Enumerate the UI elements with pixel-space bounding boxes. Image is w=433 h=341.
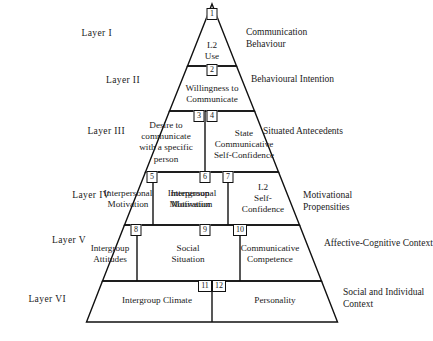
number-box-3[interactable]: 3: [194, 110, 205, 122]
layer-label-3: Layer III: [87, 126, 125, 137]
cell-text-5-left: Interpersonal Motivation: [104, 188, 152, 210]
side-label-4: Motivational Propensities: [303, 190, 352, 214]
cell-text-10: Communicative Competence: [241, 243, 300, 265]
layer-label-5: Layer V: [52, 235, 86, 246]
number-box-9[interactable]: 9: [200, 224, 211, 236]
layer-label-6: Layer VI: [28, 294, 66, 305]
number-box-1[interactable]: 1: [207, 8, 218, 20]
cell-text-2: Willingness to Communicate: [186, 83, 239, 105]
wtc-pyramid-diagram: Layer I Layer II Layer III Layer IV Laye…: [0, 0, 433, 341]
side-label-3: Situated Antecedents: [263, 126, 343, 138]
cell-text-8: Intergroup Attitudes: [91, 243, 130, 265]
number-box-2[interactable]: 2: [207, 64, 218, 76]
cell-text-7: L2 Self- Confidence: [242, 182, 284, 216]
cell-text-6: Intergroup Motivation: [170, 188, 211, 210]
number-box-6[interactable]: 6: [200, 171, 211, 183]
number-box-12[interactable]: 12: [212, 280, 226, 292]
number-box-10[interactable]: 10: [233, 224, 247, 236]
cell-text-9: Social Situation: [171, 243, 204, 265]
side-label-1: Communication Behaviour: [246, 27, 307, 51]
number-box-5[interactable]: 5: [147, 171, 158, 183]
layer-label-1: Layer I: [82, 28, 113, 39]
cell-text-4: State Communicative Self-Confidence: [214, 128, 274, 162]
number-box-8[interactable]: 8: [131, 224, 142, 236]
number-box-4[interactable]: 4: [207, 110, 218, 122]
number-box-7[interactable]: 7: [223, 171, 234, 183]
cell-text-12: Personality: [254, 295, 295, 306]
cell-text-1: L2 Use: [205, 40, 219, 62]
cell-text-11: Intergroup Climate: [122, 295, 192, 306]
cell-text-3: Desire to communicate with a specific pe…: [139, 120, 193, 165]
layer-label-2: Layer II: [106, 75, 140, 86]
side-label-6: Social and Individual Context: [343, 287, 424, 311]
side-label-2: Behavioural Intention: [251, 74, 334, 86]
number-box-11[interactable]: 11: [198, 280, 212, 292]
side-label-5: Affective-Cognitive Context: [324, 238, 433, 250]
